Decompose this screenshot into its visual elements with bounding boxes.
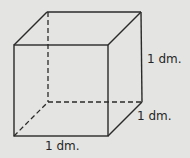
- height-label: 1 dm.: [147, 53, 182, 65]
- cube-back-right-edge: [141, 12, 142, 102]
- cube-diagram: [0, 0, 190, 158]
- width-label: 1 dm.: [45, 140, 80, 152]
- cube-top-right-edge: [108, 12, 141, 45]
- depth-label: 1 dm.: [137, 110, 172, 122]
- cube-hidden-diagonal-edge: [14, 102, 48, 136]
- cube-top-left-edge: [14, 12, 47, 45]
